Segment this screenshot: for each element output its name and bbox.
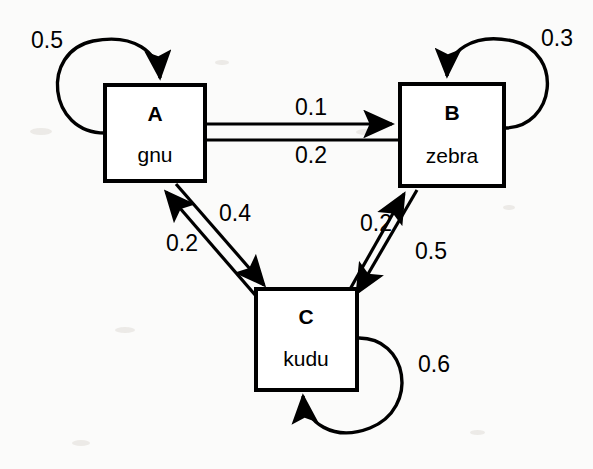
edge-label-B-B: 0.3: [541, 25, 573, 51]
node-B-box[interactable]: [400, 84, 504, 186]
node-C-name: kudu: [283, 347, 329, 370]
node-B-name: zebra: [426, 144, 479, 167]
edge-label-B-A: 0.2: [295, 142, 327, 168]
diagram-canvas: A gnu B zebra C kudu 0.5 0.3 0.6 0.1 0.2…: [0, 0, 593, 469]
node-C-label: C: [298, 305, 313, 328]
edge-label-A-B: 0.1: [295, 94, 327, 120]
node-A-box[interactable]: [105, 85, 205, 181]
node-A[interactable]: A gnu: [105, 85, 205, 181]
edge-label-A-C: 0.4: [219, 200, 251, 226]
edge-label-B-C: 0.5: [415, 238, 447, 264]
node-B[interactable]: B zebra: [400, 84, 504, 186]
node-A-label: A: [147, 102, 162, 125]
edge-label-C-C: 0.6: [418, 351, 450, 377]
node-A-name: gnu: [137, 143, 172, 166]
edge-B-to-C-line: [357, 190, 417, 293]
node-C[interactable]: C kudu: [256, 289, 357, 390]
edge-label-C-B: 0.2: [360, 210, 392, 236]
edge-B-to-C: [357, 190, 417, 293]
edge-label-A-A: 0.5: [31, 27, 63, 53]
node-B-label: B: [444, 101, 459, 124]
edge-label-C-A: 0.2: [166, 230, 198, 256]
state-transition-diagram: A gnu B zebra C kudu 0.5 0.3 0.6 0.1 0.2…: [0, 0, 593, 469]
